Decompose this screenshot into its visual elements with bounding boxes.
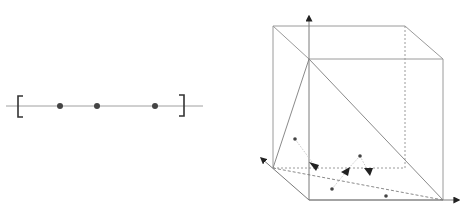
sample-point — [94, 103, 100, 109]
axis-left — [261, 158, 309, 200]
figure-svg — [0, 0, 468, 212]
cube-diagram — [273, 26, 443, 200]
figure-canvas — [0, 0, 468, 212]
simplex-edge — [273, 59, 309, 168]
sample-point — [293, 137, 297, 141]
interval-diagram — [6, 95, 203, 117]
projection-arrowheads — [309, 162, 373, 176]
arrowhead — [364, 168, 373, 176]
sample-point — [358, 154, 362, 158]
projections — [295, 139, 368, 189]
arrowhead — [309, 162, 319, 171]
sample-point — [330, 187, 334, 191]
sample-point — [152, 103, 158, 109]
sample-point — [384, 194, 388, 198]
axes — [261, 16, 459, 200]
sample-point — [57, 103, 63, 109]
